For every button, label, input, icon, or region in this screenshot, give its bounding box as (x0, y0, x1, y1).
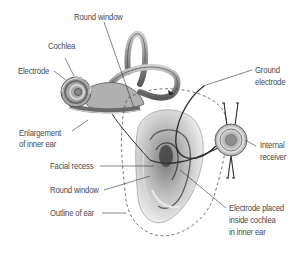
label-round-window-bottom: Round window (50, 185, 99, 195)
cochlear-implant-diagram: Round window Cochlea Electrode Enlargeme… (0, 0, 308, 256)
leader-electrode (54, 71, 66, 80)
label-internal-line2: receiver (260, 152, 286, 162)
label-electrode: Electrode (18, 66, 49, 76)
label-placed-line2: inside cochlea (229, 215, 276, 225)
label-placed-line1: Electrode placed (229, 203, 284, 213)
label-ground-line1: Ground (255, 65, 280, 75)
label-cochlea: Cochlea (48, 41, 75, 51)
label-enlargement-line2: of inner ear (19, 139, 56, 149)
inner-ear-illustration (61, 34, 177, 113)
label-outline-of-ear: Outline of ear (50, 208, 94, 218)
label-enlargement-line1: Enlargement (19, 128, 61, 138)
label-round-window-top: Round window (74, 12, 123, 22)
label-internal-line1: Internal (260, 140, 284, 150)
label-ground-line2: electrode (255, 77, 285, 87)
leader-ground-electrode (203, 70, 252, 86)
label-placed-line3: in inner ear (229, 227, 266, 237)
leader-cochlea (65, 58, 74, 76)
leader-enlargement (72, 120, 88, 131)
label-facial-recess: Facial recess (50, 161, 93, 171)
internal-receiver-illustration (215, 103, 247, 178)
